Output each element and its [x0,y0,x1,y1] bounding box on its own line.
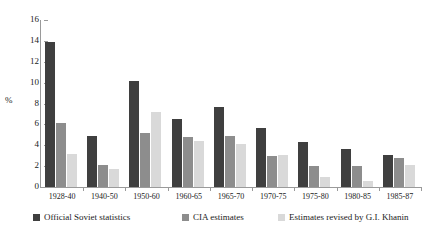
bar [214,107,224,187]
x-axis-tick-label: 1928-40 [41,192,83,202]
x-axis-tick-mark [83,187,84,191]
bar [87,136,97,187]
y-axis-tick-label: 2 [35,160,40,170]
legend-item: CIA estimates [182,212,244,223]
legend-swatch [182,214,189,221]
bar [129,81,139,187]
bar [341,149,351,187]
y-axis-title: % [5,95,13,105]
x-axis-tick-mark [337,187,338,191]
legend-item: Estimates revised by G.I. Khanin [278,212,408,223]
legend-item: Official Soviet statistics [33,212,130,223]
bar [109,169,119,187]
bar [45,42,55,187]
bar [256,128,266,187]
bar [140,133,150,187]
x-axis-tick-label: 1960-65 [168,192,210,202]
bar-group [256,20,291,187]
y-axis-tick-label: 0 [35,181,40,191]
y-axis-tick-label: 14 [30,35,39,45]
bar [151,112,161,187]
y-axis-tick-label: 16 [30,14,39,24]
x-axis-tick-mark [379,187,380,191]
legend-label: Official Soviet statistics [44,212,130,223]
x-axis-tick-label: 1940-50 [83,192,125,202]
y-axis-tick-label: 10 [30,77,39,87]
bar [405,165,415,187]
bar-group [45,20,80,187]
legend-swatch [278,214,285,221]
bar-group [87,20,122,187]
x-axis-tick-mark [168,187,169,191]
legend-label: CIA estimates [193,212,244,223]
bar [225,136,235,187]
y-axis-tick-label: 8 [35,98,40,108]
bar-group [341,20,376,187]
legend-swatch [33,214,40,221]
x-axis-tick-label: 1975-80 [294,192,336,202]
bar [67,154,77,187]
chart-legend: Official Soviet statisticsCIA estimatesE… [33,212,429,226]
bar [267,156,277,187]
x-axis-tick-label: 1985-87 [379,192,421,202]
bar [194,141,204,187]
bar [183,137,193,187]
x-axis-tick-label: 1950-60 [125,192,167,202]
bar-group [172,20,207,187]
x-axis-tick-mark [125,187,126,191]
legend-label: Estimates revised by G.I. Khanin [289,212,408,223]
bar [394,158,404,187]
bar [309,166,319,187]
bar [278,155,288,187]
bar-group [383,20,418,187]
x-axis-tick-label: 1965-70 [210,192,252,202]
bar-group [298,20,333,187]
x-axis-line [40,187,421,188]
y-axis-tick-label: 12 [30,56,39,66]
bar-group [214,20,249,187]
bar [320,177,330,187]
bar [172,119,182,187]
bar [98,165,108,187]
y-axis-tick-label: 4 [35,139,40,149]
bar [383,155,393,187]
bar-group [129,20,164,187]
x-axis-tick-mark [294,187,295,191]
bar [56,123,66,187]
plot-area [41,20,421,187]
x-axis-tick-mark [421,187,422,191]
bar [352,166,362,187]
bar-chart: % 0246810121416 1928-401940-501950-60196… [0,0,433,241]
bar [236,144,246,187]
x-axis-tick-label: 1970-75 [252,192,294,202]
bar [298,142,308,187]
y-axis-tick-label: 6 [35,118,40,128]
x-axis-tick-label: 1980-85 [337,192,379,202]
x-axis-tick-mark [210,187,211,191]
x-axis-tick-mark [252,187,253,191]
